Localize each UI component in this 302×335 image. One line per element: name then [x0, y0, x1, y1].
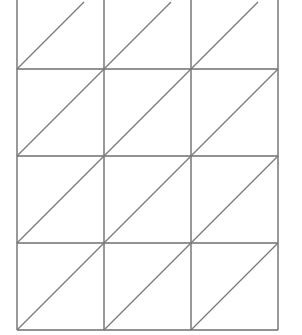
cell-diagonal-line	[17, 156, 104, 243]
cell-diagonal-line	[104, 69, 191, 156]
cell-diagonal-line	[17, 2, 84, 69]
cell-diagonal-line	[191, 243, 278, 330]
cell-diagonal-line	[191, 156, 278, 243]
cell-diagonal-line	[104, 156, 191, 243]
cell-diagonal-line	[104, 243, 191, 330]
cell-diagonal-line	[191, 69, 278, 156]
cell-diagonal-line	[191, 2, 258, 69]
cell-diagonal-line	[104, 2, 171, 69]
cell-diagonal-line	[17, 69, 104, 156]
cell-diagonal-line	[17, 243, 104, 330]
lattice-grid	[0, 0, 302, 335]
